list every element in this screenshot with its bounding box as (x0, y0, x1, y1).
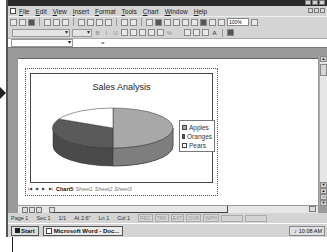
align-left-icon[interactable] (121, 29, 128, 36)
menu-edit[interactable]: Edit (36, 8, 47, 15)
status-at: At 2.6" (74, 215, 90, 221)
scroll-up-icon[interactable]: ▲ (320, 56, 327, 62)
bold-icon[interactable]: B (94, 30, 101, 36)
embedded-chart-frame[interactable]: Sales Analysis Apples (25, 68, 218, 196)
hyperlink-icon[interactable] (146, 19, 153, 26)
print-icon[interactable] (44, 19, 51, 26)
percent-icon[interactable]: % (166, 30, 173, 36)
name-box[interactable] (11, 39, 73, 47)
merge-center-icon[interactable] (148, 29, 155, 36)
currency-icon[interactable] (157, 29, 164, 36)
map-icon[interactable] (209, 19, 216, 26)
start-button[interactable]: Start (11, 226, 39, 236)
scroll-right-icon[interactable] (309, 206, 316, 212)
font-color-icon[interactable]: A (211, 30, 218, 36)
underline-icon[interactable]: U (112, 30, 119, 36)
first-sheet-icon[interactable]: |◀ (28, 186, 33, 192)
status-col: Col 1 (117, 215, 130, 221)
legend-swatch-icon (182, 125, 187, 130)
align-center-icon[interactable] (130, 29, 137, 36)
fill-color-icon[interactable] (202, 29, 209, 36)
chart-legend[interactable]: Apples Oranges Pears (179, 120, 215, 152)
help-icon[interactable] (251, 19, 258, 26)
doc-restore-button[interactable] (314, 8, 319, 13)
undo-icon[interactable] (121, 19, 128, 26)
menu-file[interactable]: File (19, 8, 30, 15)
autosum-icon[interactable] (164, 19, 171, 26)
cut-icon[interactable] (78, 19, 85, 26)
menu-format[interactable]: Format (95, 8, 116, 15)
minimize-button[interactable] (305, 0, 311, 5)
pie-chart[interactable] (51, 106, 176, 170)
document-controls (308, 8, 325, 13)
menu-view[interactable]: View (53, 8, 67, 15)
formula-bar: = (8, 38, 327, 48)
spelling-icon[interactable] (62, 19, 69, 26)
italic-icon[interactable]: I (103, 30, 110, 36)
align-right-icon[interactable] (139, 29, 146, 36)
doc-minimize-button[interactable] (308, 8, 313, 13)
last-sheet-icon[interactable]: ▶| (49, 186, 54, 192)
menu-insert[interactable]: Insert (73, 8, 89, 15)
format-painter-icon[interactable] (105, 19, 112, 26)
menu-tools[interactable]: Tools (122, 8, 137, 15)
start-label: Start (21, 228, 35, 234)
web-layout-icon[interactable] (29, 207, 35, 213)
status-ovr[interactable]: OVR (186, 214, 201, 222)
next-sheet-icon[interactable]: ▶ (42, 186, 47, 192)
menu-window[interactable]: Window (165, 8, 188, 15)
status-page: Page 1 (11, 215, 28, 221)
chart-wizard-icon[interactable] (200, 19, 207, 26)
legend-item-pears: Pears (182, 141, 212, 150)
status-wph[interactable]: WPH (203, 214, 219, 222)
menu-chart[interactable]: Chart (143, 8, 159, 15)
comma-icon[interactable]: , (175, 30, 182, 36)
tab-sheet1[interactable]: Sheet1 (75, 186, 92, 192)
redo-icon[interactable] (130, 19, 137, 26)
tab-chart5[interactable]: Chart5 (56, 186, 73, 192)
vertical-scrollbar[interactable]: ▲ ▼ ▲ ○ ▼ (319, 56, 327, 206)
document-icon[interactable] (10, 8, 16, 14)
sort-ascending-icon[interactable] (182, 19, 189, 26)
prev-sheet-icon[interactable]: ◀ (35, 186, 40, 192)
next-page-icon[interactable]: ▼ (320, 200, 327, 206)
scroll-track[interactable] (52, 206, 228, 213)
legend-swatch-icon (182, 134, 185, 139)
zoom-select[interactable]: 100% (227, 18, 249, 26)
legend-label: Apples (189, 124, 209, 131)
sort-descending-icon[interactable] (191, 19, 198, 26)
status-rec[interactable]: REC (138, 214, 153, 222)
normal-view-icon[interactable] (22, 207, 28, 213)
chart-area[interactable]: Sales Analysis Apples (30, 73, 213, 183)
save-icon[interactable] (28, 19, 35, 26)
scroll-thumb[interactable] (320, 64, 327, 76)
status-trk[interactable]: TRK (155, 214, 169, 222)
chart-type-icon[interactable] (227, 29, 234, 36)
taskbar-word-button[interactable]: Microsoft Word - Doc... (43, 226, 123, 236)
window-controls (305, 0, 325, 5)
borders-icon[interactable] (193, 29, 200, 36)
new-icon[interactable] (10, 19, 17, 26)
print-layout-icon[interactable] (36, 207, 42, 213)
volume-icon[interactable]: ♪ (294, 228, 297, 234)
drawing-icon[interactable] (218, 19, 225, 26)
font-select[interactable] (12, 29, 70, 37)
tab-sheet3[interactable]: Sheet3 (114, 186, 131, 192)
print-preview-icon[interactable] (53, 19, 60, 26)
tab-sheet2[interactable]: Sheet2 (95, 186, 112, 192)
increase-decimal-icon[interactable] (184, 29, 191, 36)
web-toolbar-icon[interactable] (155, 19, 162, 26)
formula-equals-icon[interactable]: = (101, 40, 105, 46)
maximize-button[interactable] (312, 0, 318, 5)
font-size-select[interactable] (72, 29, 92, 37)
close-button[interactable] (319, 0, 325, 5)
menu-help[interactable]: Help (194, 8, 207, 15)
doc-close-button[interactable] (320, 8, 325, 13)
paste-icon[interactable] (96, 19, 103, 26)
status-spelling-field (221, 215, 243, 222)
horizontal-scrollbar[interactable] (18, 205, 318, 213)
open-icon[interactable] (19, 19, 26, 26)
status-ext[interactable]: EXT (171, 214, 185, 222)
copy-icon[interactable] (87, 19, 94, 26)
function-icon[interactable] (173, 19, 180, 26)
